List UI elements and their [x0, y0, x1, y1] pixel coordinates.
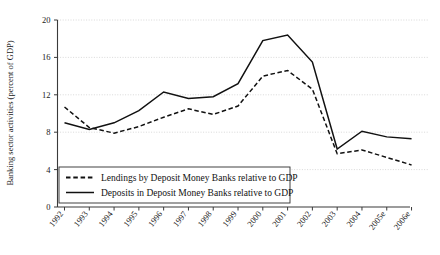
chart-container: 048121620 199219931994199519961997199819… [0, 0, 440, 255]
line-chart: 048121620 199219931994199519961997199819… [0, 0, 440, 255]
y-tick-label-16: 16 [42, 52, 51, 62]
y-tick-label-20: 20 [42, 15, 51, 25]
legend-label-lendings: Lendings by Deposit Money Banks relative… [101, 173, 298, 183]
legend: Lendings by Deposit Money Banks relative… [59, 167, 298, 203]
y-tick-label-12: 12 [42, 90, 51, 100]
y-axis-title: Banking sector activities (percent of GD… [5, 40, 15, 185]
y-tick-label-8: 8 [46, 127, 50, 137]
y-tick-label-0: 0 [46, 202, 50, 212]
legend-label-deposits: Deposits in Deposit Money Banks relative… [101, 188, 293, 198]
